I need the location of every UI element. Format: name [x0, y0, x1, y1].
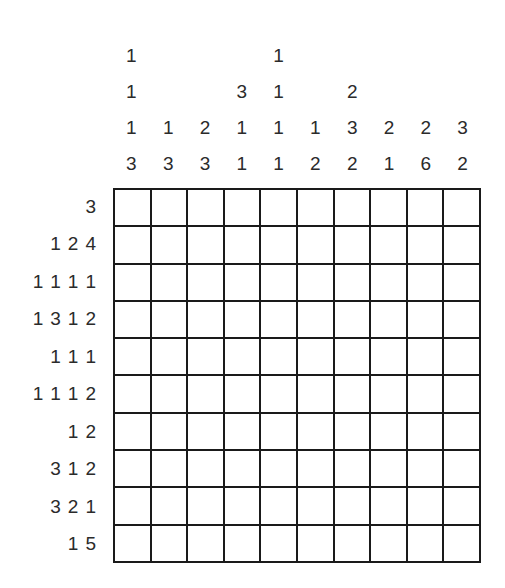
grid-cell[interactable]	[298, 227, 335, 264]
grid-cell[interactable]	[115, 227, 152, 264]
grid-cell[interactable]	[335, 488, 372, 525]
grid-cell[interactable]	[188, 526, 225, 563]
grid-cell[interactable]	[225, 376, 262, 413]
grid-cell[interactable]	[188, 451, 225, 488]
grid-cell[interactable]	[225, 265, 262, 302]
grid-cell[interactable]	[371, 414, 408, 451]
grid-cell[interactable]	[188, 376, 225, 413]
grid-cell[interactable]	[261, 190, 298, 227]
grid-cell[interactable]	[444, 488, 481, 525]
grid-cell[interactable]	[188, 339, 225, 376]
grid-cell[interactable]	[298, 526, 335, 563]
grid-cell[interactable]	[408, 488, 445, 525]
grid-cell[interactable]	[408, 265, 445, 302]
grid-cell[interactable]	[371, 302, 408, 339]
grid-cell[interactable]	[152, 451, 189, 488]
grid-cell[interactable]	[261, 265, 298, 302]
grid-cell[interactable]	[115, 488, 152, 525]
grid-cell[interactable]	[152, 488, 189, 525]
grid-cell[interactable]	[371, 526, 408, 563]
grid-cell[interactable]	[188, 265, 225, 302]
grid-cell[interactable]	[335, 451, 372, 488]
grid-cell[interactable]	[115, 265, 152, 302]
grid-cell[interactable]	[335, 227, 372, 264]
grid-cell[interactable]	[371, 227, 408, 264]
grid-cell[interactable]	[371, 190, 408, 227]
grid-cell[interactable]	[408, 190, 445, 227]
grid-cell[interactable]	[335, 376, 372, 413]
grid-cell[interactable]	[261, 414, 298, 451]
grid-cell[interactable]	[298, 190, 335, 227]
grid-cell[interactable]	[188, 190, 225, 227]
grid-cell[interactable]	[444, 227, 481, 264]
grid-cell[interactable]	[152, 265, 189, 302]
grid-cell[interactable]	[335, 414, 372, 451]
grid-cell[interactable]	[225, 302, 262, 339]
grid-cell[interactable]	[335, 339, 372, 376]
grid-cell[interactable]	[152, 414, 189, 451]
grid-cell[interactable]	[115, 376, 152, 413]
grid-cell[interactable]	[225, 190, 262, 227]
grid-cell[interactable]	[152, 302, 189, 339]
grid-cell[interactable]	[408, 339, 445, 376]
grid-cell[interactable]	[444, 190, 481, 227]
grid-cell[interactable]	[408, 414, 445, 451]
grid-cell[interactable]	[444, 451, 481, 488]
grid-cell[interactable]	[225, 488, 262, 525]
grid-cell[interactable]	[152, 227, 189, 264]
grid-cell[interactable]	[261, 339, 298, 376]
grid-cell[interactable]	[298, 339, 335, 376]
grid-cell[interactable]	[298, 376, 335, 413]
grid-cell[interactable]	[408, 376, 445, 413]
nonogram-grid[interactable]	[113, 188, 481, 563]
grid-cell[interactable]	[115, 526, 152, 563]
grid-cell[interactable]	[371, 376, 408, 413]
grid-cell[interactable]	[371, 265, 408, 302]
grid-cell[interactable]	[408, 302, 445, 339]
grid-cell[interactable]	[444, 339, 481, 376]
grid-cell[interactable]	[408, 526, 445, 563]
grid-cell[interactable]	[188, 302, 225, 339]
grid-cell[interactable]	[261, 526, 298, 563]
grid-cell[interactable]	[408, 227, 445, 264]
grid-cell[interactable]	[335, 526, 372, 563]
grid-cell[interactable]	[298, 302, 335, 339]
grid-cell[interactable]	[115, 339, 152, 376]
grid-cell[interactable]	[444, 376, 481, 413]
grid-cell[interactable]	[261, 451, 298, 488]
grid-cell[interactable]	[298, 451, 335, 488]
grid-cell[interactable]	[444, 265, 481, 302]
grid-cell[interactable]	[298, 265, 335, 302]
grid-cell[interactable]	[152, 376, 189, 413]
grid-cell[interactable]	[152, 526, 189, 563]
grid-cell[interactable]	[408, 451, 445, 488]
grid-cell[interactable]	[371, 451, 408, 488]
grid-cell[interactable]	[371, 488, 408, 525]
grid-cell[interactable]	[444, 302, 481, 339]
grid-cell[interactable]	[225, 451, 262, 488]
grid-cell[interactable]	[444, 526, 481, 563]
grid-cell[interactable]	[225, 526, 262, 563]
grid-cell[interactable]	[115, 414, 152, 451]
grid-cell[interactable]	[152, 190, 189, 227]
grid-cell[interactable]	[261, 488, 298, 525]
grid-cell[interactable]	[115, 190, 152, 227]
grid-cell[interactable]	[335, 190, 372, 227]
grid-cell[interactable]	[225, 339, 262, 376]
grid-cell[interactable]	[335, 265, 372, 302]
grid-cell[interactable]	[298, 414, 335, 451]
grid-cell[interactable]	[371, 339, 408, 376]
grid-cell[interactable]	[225, 227, 262, 264]
grid-cell[interactable]	[335, 302, 372, 339]
grid-cell[interactable]	[261, 302, 298, 339]
grid-cell[interactable]	[444, 414, 481, 451]
grid-cell[interactable]	[298, 488, 335, 525]
grid-cell[interactable]	[115, 451, 152, 488]
grid-cell[interactable]	[152, 339, 189, 376]
grid-cell[interactable]	[115, 302, 152, 339]
grid-cell[interactable]	[261, 376, 298, 413]
grid-cell[interactable]	[225, 414, 262, 451]
grid-cell[interactable]	[188, 227, 225, 264]
grid-cell[interactable]	[188, 488, 225, 525]
grid-cell[interactable]	[261, 227, 298, 264]
